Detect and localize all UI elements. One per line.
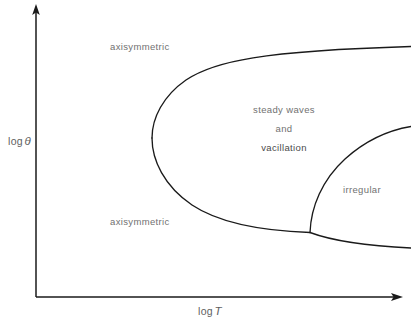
- label-vacillation: vacillation: [224, 138, 344, 157]
- label-steady-waves-block: steady waves and vacillation: [224, 100, 344, 157]
- label-steady-waves-line2: and: [224, 119, 344, 138]
- x-axis-label-symbol: T: [213, 305, 222, 317]
- y-axis-label-symbol: θ: [23, 135, 31, 147]
- diagram-canvas: [0, 0, 411, 326]
- y-axis-label: logθ: [8, 135, 31, 147]
- label-axisymmetric-upper: axisymmetric: [110, 41, 170, 52]
- lower-bounding-curve: [310, 233, 411, 249]
- label-irregular: irregular: [343, 184, 381, 195]
- label-axisymmetric-lower: axisymmetric: [110, 216, 170, 227]
- y-axis-label-prefix: log: [8, 135, 23, 147]
- label-steady-waves-line1: steady waves: [224, 100, 344, 119]
- regime-diagram-figure: axisymmetric axisymmetric steady waves a…: [0, 0, 411, 326]
- x-axis-label: logT: [198, 305, 222, 317]
- x-axis-label-prefix: log: [198, 305, 213, 317]
